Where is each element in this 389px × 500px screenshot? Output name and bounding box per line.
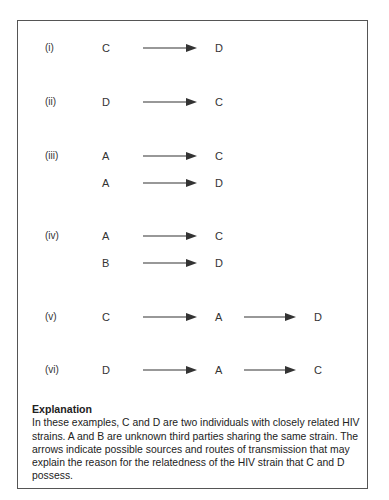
node: B (102, 257, 109, 269)
node: A (215, 364, 222, 376)
right-arrow-icon (143, 365, 197, 375)
right-arrow-icon (143, 151, 197, 161)
node: D (102, 364, 110, 376)
right-arrow-icon (143, 312, 197, 322)
node: A (215, 311, 222, 323)
node: D (102, 96, 110, 108)
node: C (215, 230, 223, 242)
right-arrow-icon (143, 178, 197, 188)
node: D (215, 257, 223, 269)
row-label: (iv) (45, 230, 59, 241)
node: C (314, 364, 322, 376)
row-label: (i) (45, 42, 54, 53)
node: C (215, 150, 223, 162)
right-arrow-icon (244, 312, 296, 322)
node: A (102, 177, 109, 189)
explanation: Explanation In these examples, C and D a… (32, 403, 364, 483)
right-arrow-icon (143, 231, 197, 241)
row-label: (v) (45, 311, 57, 322)
node: C (102, 42, 110, 54)
node: A (102, 230, 109, 242)
node: C (215, 96, 223, 108)
explanation-body: In these examples, C and D are two indiv… (32, 416, 364, 482)
node: D (314, 311, 322, 323)
right-arrow-icon (143, 97, 197, 107)
right-arrow-icon (143, 258, 197, 268)
row-label: (vi) (45, 364, 59, 375)
right-arrow-icon (244, 365, 296, 375)
node: C (102, 311, 110, 323)
node: D (215, 177, 223, 189)
node: D (215, 42, 223, 54)
node: A (102, 150, 109, 162)
explanation-title: Explanation (32, 403, 364, 416)
right-arrow-icon (143, 43, 197, 53)
row-label: (ii) (45, 96, 56, 107)
row-label: (iii) (45, 150, 58, 161)
